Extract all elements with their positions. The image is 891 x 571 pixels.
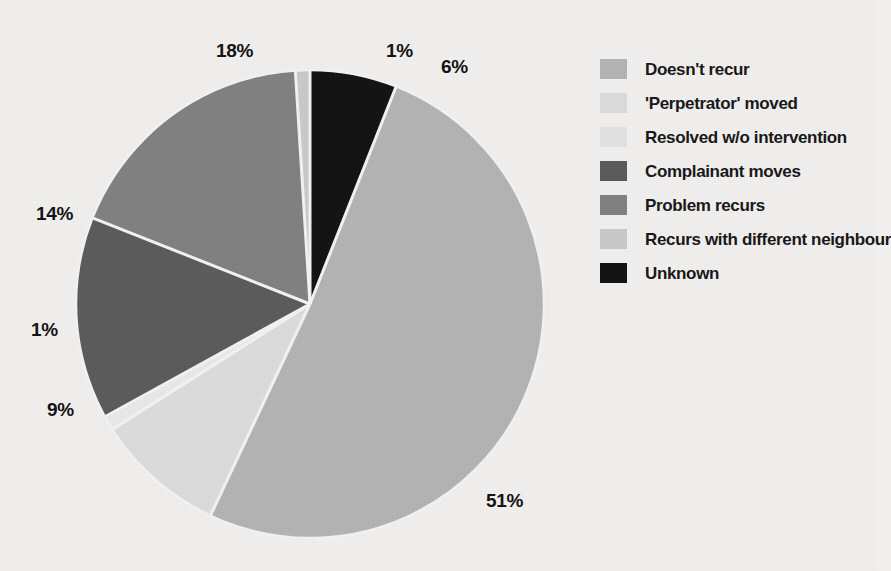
pie-percentage-label: 18% bbox=[216, 41, 253, 60]
pie-percentage-label: 6% bbox=[441, 57, 468, 76]
legend-item-label: Problem recurs bbox=[645, 197, 765, 214]
legend-item[interactable]: Complainant moves bbox=[600, 154, 877, 188]
legend-swatch-recurs-different-neighbour bbox=[600, 229, 627, 249]
legend-swatch-resolved-wo-intervention bbox=[600, 127, 627, 147]
chart-legend: Doesn't recur'Perpetrator' movedResolved… bbox=[600, 52, 877, 290]
legend-item-label: Recurs with different neighbour bbox=[645, 231, 891, 248]
pie-percentage-label: 1% bbox=[386, 41, 413, 60]
legend-item[interactable]: Doesn't recur bbox=[600, 52, 877, 86]
legend-item-label: 'Perpetrator' moved bbox=[645, 95, 798, 112]
legend-swatch-complainant-moves bbox=[600, 161, 627, 181]
pie-chart-area bbox=[0, 0, 600, 571]
legend-swatch-perpetrator-moved bbox=[600, 93, 627, 113]
legend-item-label: Resolved w/o intervention bbox=[645, 129, 847, 146]
legend-item[interactable]: Unknown bbox=[600, 256, 877, 290]
pie-percentage-label: 51% bbox=[486, 491, 523, 510]
pie-percentage-label: 1% bbox=[31, 320, 58, 339]
legend-swatch-unknown bbox=[600, 263, 627, 283]
legend-swatch-doesnt-recur bbox=[600, 59, 627, 79]
legend-item[interactable]: Recurs with different neighbour bbox=[600, 222, 877, 256]
legend-item[interactable]: 'Perpetrator' moved bbox=[600, 86, 877, 120]
legend-swatch-problem-recurs bbox=[600, 195, 627, 215]
legend-item[interactable]: Problem recurs bbox=[600, 188, 877, 222]
pie-percentage-label: 14% bbox=[36, 204, 73, 223]
legend-item-label: Unknown bbox=[645, 265, 719, 282]
pie-percentage-label: 9% bbox=[47, 400, 74, 419]
legend-item-label: Complainant moves bbox=[645, 163, 801, 180]
pie-chart-svg bbox=[0, 0, 600, 571]
legend-item-label: Doesn't recur bbox=[645, 61, 749, 78]
legend-item[interactable]: Resolved w/o intervention bbox=[600, 120, 877, 154]
